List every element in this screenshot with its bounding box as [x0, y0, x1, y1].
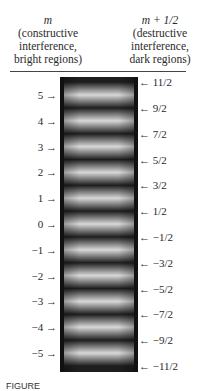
- dark-order-label: ← −5/2: [139, 283, 173, 295]
- bright-order-label: 4 →: [38, 115, 57, 127]
- dark-order-label: ← 1/2: [139, 205, 167, 217]
- fringe-right-edge: [134, 77, 138, 372]
- bright-order-label: 5 →: [38, 89, 57, 101]
- dark-desc-3: dark regions): [118, 53, 202, 66]
- dark-order-label: ← −3/2: [139, 257, 173, 269]
- bright-order-label: 2 →: [38, 166, 57, 178]
- dark-order-label: ← −11/2: [139, 360, 178, 372]
- bright-order-label: 3 →: [38, 141, 57, 153]
- bright-order-label: −4 →: [32, 321, 57, 333]
- dark-order-label: ← 5/2: [139, 154, 167, 166]
- bright-order-label: −5 →: [32, 347, 57, 359]
- bright-order-label: −1 →: [32, 244, 57, 256]
- bright-desc-1: (constructive: [6, 27, 90, 40]
- bright-variable: m: [6, 14, 90, 27]
- bright-order-label: 0 →: [38, 218, 57, 230]
- header-divider: [10, 71, 186, 72]
- dark-order-label: ← 9/2: [139, 102, 167, 114]
- bright-desc-3: bright regions): [6, 53, 90, 66]
- bright-order-label: −3 →: [32, 295, 57, 307]
- bright-order-label: 1 →: [38, 192, 57, 204]
- figure-caption: FIGURE: [6, 381, 40, 391]
- fringe-left-edge: [60, 77, 64, 372]
- dark-order-label: ← −1/2: [139, 231, 173, 243]
- dark-desc-1: (destructive: [118, 27, 202, 40]
- dark-order-label: ← −9/2: [139, 334, 173, 346]
- dark-column-header: m + 1/2 (destructive interference, dark …: [118, 14, 202, 66]
- bright-column-header: m (constructive interference, bright reg…: [6, 14, 90, 66]
- dark-order-label: ← −7/2: [139, 308, 173, 320]
- interference-fringe-image: [60, 77, 138, 372]
- dark-order-label: ← 7/2: [139, 128, 167, 140]
- bright-desc-2: interference,: [6, 40, 90, 53]
- dark-variable: m + 1/2: [118, 14, 202, 27]
- dark-order-label: ← 3/2: [139, 179, 167, 191]
- dark-order-label: ← 11/2: [139, 76, 172, 88]
- dark-desc-2: interference,: [118, 40, 202, 53]
- bright-order-label: −2 →: [32, 270, 57, 282]
- fringe-shading: [60, 77, 138, 372]
